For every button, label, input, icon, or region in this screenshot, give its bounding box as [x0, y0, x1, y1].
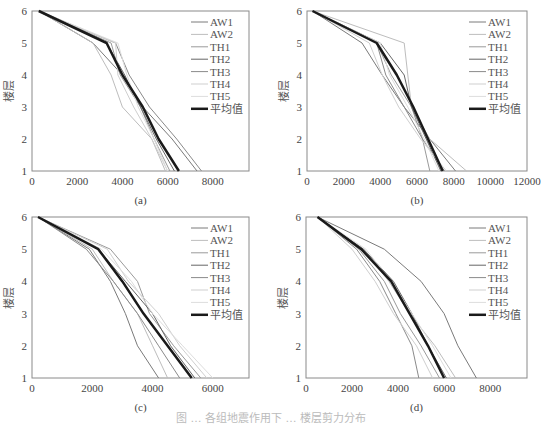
legend-label: TH5 [210, 90, 231, 102]
y-tick-label: 1 [296, 372, 302, 384]
legend-label: AW2 [210, 28, 233, 40]
x-tick-label: 6000 [157, 175, 180, 187]
x-tick-label: 2000 [81, 382, 104, 394]
chart-panel-2: 1234560200040006000楼层(c)AW1AW2TH1TH2TH3T… [2, 211, 249, 414]
series-line-TH3 [38, 217, 180, 378]
y-tick-label: 4 [22, 275, 28, 287]
series-line-TH2 [313, 11, 441, 171]
series-line-AW1 [39, 11, 197, 171]
x-tick-label: 4000 [369, 175, 392, 187]
x-tick-label: 2000 [341, 382, 364, 394]
series-line-TH4 [313, 11, 447, 171]
y-tick-label: 5 [22, 37, 28, 49]
series-line-平均值 [38, 217, 192, 378]
x-tick-label: 6000 [406, 175, 429, 187]
legend-label: TH3 [210, 272, 231, 284]
y-tick-label: 1 [22, 165, 28, 177]
series-line-AW2 [313, 11, 467, 171]
series-line-AW1 [38, 217, 159, 378]
legend-label: TH4 [488, 78, 509, 90]
legend-label: AW2 [488, 234, 511, 246]
series-line-TH1 [39, 11, 170, 171]
legend-label: TH4 [210, 284, 231, 296]
x-tick-label: 8000 [479, 382, 502, 394]
y-tick-label: 5 [296, 243, 302, 255]
y-tick-label: 3 [296, 308, 302, 320]
y-tick-label: 1 [297, 165, 303, 177]
legend-label: AW2 [488, 28, 511, 40]
legend-label: 平均值 [488, 103, 521, 116]
x-tick-label: 0 [29, 382, 35, 394]
series-line-TH5 [313, 11, 440, 171]
y-tick-label: 6 [297, 5, 303, 17]
x-tick-label: 2000 [333, 175, 356, 187]
legend-label: TH2 [488, 53, 508, 65]
legend-label: TH1 [210, 41, 230, 53]
x-tick-label: 6000 [202, 382, 225, 394]
x-tick-label: 2000 [66, 175, 89, 187]
chart-panel-0: 12345602000400060008000楼层(a)AW1AW2TH1TH2… [2, 5, 249, 207]
y-tick-label: 2 [297, 133, 303, 145]
legend-label: AW2 [210, 234, 233, 246]
chart-panel-1: 123456020004000600080001000012000楼层(b)AW… [277, 5, 541, 207]
x-tick-label: 8000 [443, 175, 466, 187]
series-line-TH3 [39, 11, 202, 171]
x-tick-label: 8000 [202, 175, 225, 187]
y-axis-label: 楼层 [277, 80, 291, 102]
legend-label: AW1 [488, 222, 511, 234]
legend-label: TH4 [488, 284, 509, 296]
legend-label: TH3 [210, 66, 231, 78]
y-tick-label: 3 [22, 101, 28, 113]
legend-label: 平均值 [488, 309, 521, 322]
y-tick-label: 3 [22, 308, 28, 320]
y-tick-label: 4 [296, 275, 302, 287]
x-tick-label: 0 [29, 175, 35, 187]
series-line-AW1 [313, 11, 456, 171]
x-tick-label: 4000 [387, 382, 410, 394]
series-line-TH2 [39, 11, 175, 171]
legend-label: TH3 [488, 272, 509, 284]
legend-label: TH2 [488, 259, 508, 271]
series-line-TH4 [38, 217, 207, 378]
series-line-AW2 [39, 11, 166, 171]
legend-label: TH1 [210, 247, 230, 259]
x-tick-label: 4000 [142, 382, 165, 394]
legend-label: TH5 [488, 296, 509, 308]
legend-label: TH2 [210, 259, 230, 271]
y-axis-label: 楼层 [2, 287, 16, 309]
legend-label: AW1 [488, 16, 511, 28]
legend-label: TH2 [210, 53, 230, 65]
series-line-TH1 [318, 217, 440, 378]
y-tick-label: 5 [22, 243, 28, 255]
chart-panel-3: 12345602000400060008000楼层(d)AW1AW2TH1TH2… [276, 211, 527, 414]
y-axis-label: 楼层 [2, 80, 16, 102]
x-tick-label: 6000 [433, 382, 456, 394]
y-tick-label: 4 [297, 69, 303, 81]
legend-label: TH5 [488, 90, 509, 102]
series-line-AW1 [318, 217, 477, 378]
legend-label: AW1 [210, 16, 233, 28]
series-line-TH5 [39, 11, 168, 171]
series-line-TH4 [318, 217, 433, 378]
y-tick-label: 6 [296, 211, 302, 223]
panel-label: (a) [134, 194, 147, 207]
x-tick-label: 12000 [513, 175, 541, 187]
x-tick-label: 0 [303, 382, 309, 394]
figure-canvas: 12345602000400060008000楼层(a)AW1AW2TH1TH2… [0, 0, 542, 426]
series-line-TH2 [38, 217, 195, 378]
legend-label: 平均值 [210, 309, 243, 322]
y-tick-label: 6 [22, 5, 28, 17]
x-tick-label: 0 [304, 175, 310, 187]
y-tick-label: 4 [22, 69, 28, 81]
series-line-平均值 [318, 217, 445, 378]
y-tick-label: 6 [22, 211, 28, 223]
series-line-TH1 [313, 11, 430, 171]
y-axis-label: 楼层 [276, 287, 290, 309]
legend: AW1AW2TH1TH2TH3TH4TH5平均值 [191, 222, 243, 322]
legend: AW1AW2TH1TH2TH3TH4TH5平均值 [469, 222, 521, 322]
legend-label: TH1 [488, 247, 508, 259]
y-tick-label: 3 [297, 101, 303, 113]
y-tick-label: 2 [22, 340, 28, 352]
y-tick-label: 2 [296, 340, 302, 352]
figure-caption: 图 … 各组地震作用下 … 楼层剪力分布 [0, 409, 542, 425]
